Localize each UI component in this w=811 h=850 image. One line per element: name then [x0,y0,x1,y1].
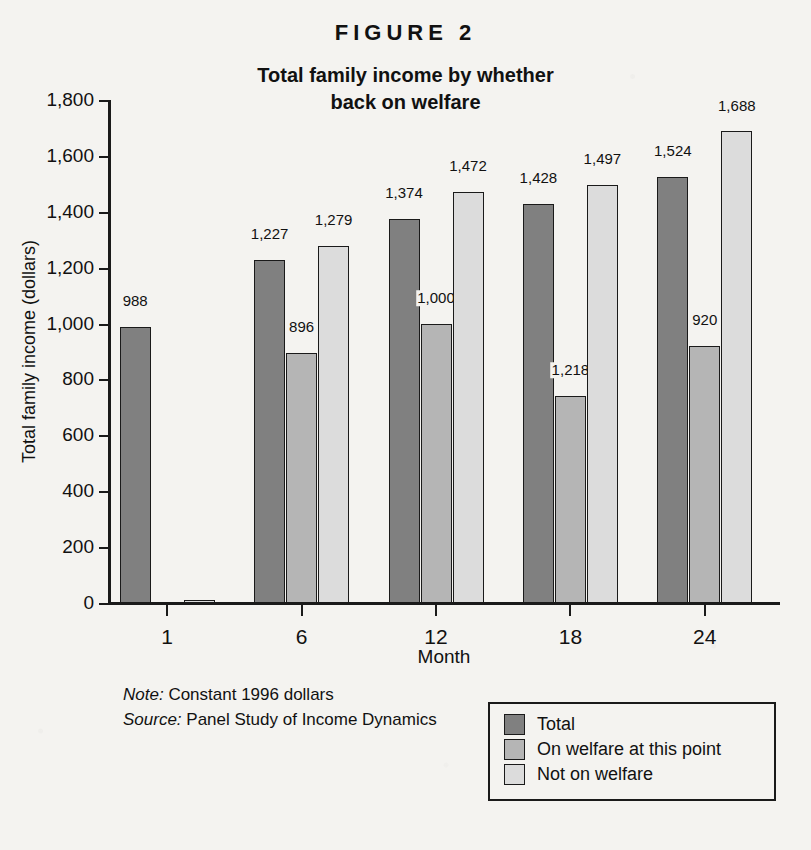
bar-value-label: 1,279 [314,212,354,228]
y-tick-label: 1,800 [46,89,94,111]
legend-swatch-icon [504,764,525,785]
legend-swatch-icon [504,714,525,735]
plot-area: 02004006008001,0001,2001,4001,6001,80098… [108,100,780,603]
note-prefix: Note: [123,685,164,704]
bar-total-month-6 [254,260,285,603]
y-tick-mark [99,324,108,326]
chart-legend: TotalOn welfare at this pointNot on welf… [488,702,776,801]
bar-value-label: 1,000 [416,290,456,306]
bar-total-month-18 [523,204,554,603]
y-tick-mark [99,491,108,493]
bar-value-label: 896 [288,319,315,335]
y-tick-label: 800 [62,368,94,390]
x-tick-mark [301,605,303,616]
x-tick-mark [435,605,437,616]
bar-value-label: 1,227 [250,227,290,243]
bar-value-label: 1,218 [551,363,591,379]
y-tick-label: 400 [62,480,94,502]
y-tick-mark [99,603,108,605]
y-tick-mark [99,547,108,549]
bar-value-label: 920 [691,312,718,328]
legend-item: Total [504,714,762,735]
chart-title-line-1: Total family income by whether [0,62,811,89]
bar-on-welfare-at-this-point-month-18 [555,396,586,603]
bar-total-month-12 [389,219,420,603]
y-tick-label: 1,600 [46,145,94,167]
figure-label: FIGURE 2 [0,20,811,46]
figure-notes: Note: Constant 1996 dollars Source: Pane… [123,683,437,732]
bar-on-welfare-at-this-point-month-6 [286,353,317,603]
source-prefix: Source: [123,710,182,729]
bar-on-welfare-at-this-point-month-12 [421,324,452,603]
y-tick-mark [99,212,108,214]
y-tick-mark [99,156,108,158]
bar-on-welfare-at-this-point-month-24 [689,346,720,603]
bar-value-label: 1,688 [717,98,757,114]
x-tick-mark [166,605,168,616]
bar-value-label: 1,497 [583,151,623,167]
bar-not-on-welfare-month-18 [587,185,618,603]
bar-not-on-welfare-month-6 [318,246,349,603]
y-axis-title: Total family income (dollars) [18,100,42,603]
source-text: Panel Study of Income Dynamics [186,710,436,729]
y-tick-label: 0 [83,592,94,614]
x-axis-title: Month [108,646,780,668]
legend-label: Not on welfare [537,764,653,785]
bar-value-label: 988 [122,293,149,309]
y-tick-mark [99,435,108,437]
y-tick-mark [99,100,108,102]
note-line: Note: Constant 1996 dollars [123,683,437,708]
y-tick-label: 1,400 [46,201,94,223]
y-tick-mark [99,268,108,270]
legend-label: Total [537,714,575,735]
legend-item: Not on welfare [504,764,762,785]
legend-item: On welfare at this point [504,739,762,760]
bar-value-label: 1,524 [653,144,693,160]
bar-value-label: 1,472 [448,158,488,174]
bar-not-on-welfare-month-24 [721,131,752,603]
note-text: Constant 1996 dollars [168,685,333,704]
source-line: Source: Panel Study of Income Dynamics [123,708,437,733]
x-tick-mark [569,605,571,616]
bar-value-label: 1,428 [519,170,559,186]
x-tick-mark [704,605,706,616]
y-axis-line [108,100,111,603]
legend-swatch-icon [504,739,525,760]
bar-total-month-1 [120,327,151,603]
y-tick-label: 200 [62,536,94,558]
bar-not-on-welfare-month-12 [453,192,484,603]
bar-total-month-24 [657,177,688,603]
y-tick-mark [99,379,108,381]
y-tick-label: 600 [62,424,94,446]
bar-value-label: 1,374 [384,186,424,202]
bar-not-on-welfare-month-1 [184,600,215,603]
legend-label: On welfare at this point [537,739,721,760]
y-axis-title-text: Total family income (dollars) [20,240,41,463]
y-tick-label: 1,200 [46,257,94,279]
y-tick-label: 1,000 [46,313,94,335]
